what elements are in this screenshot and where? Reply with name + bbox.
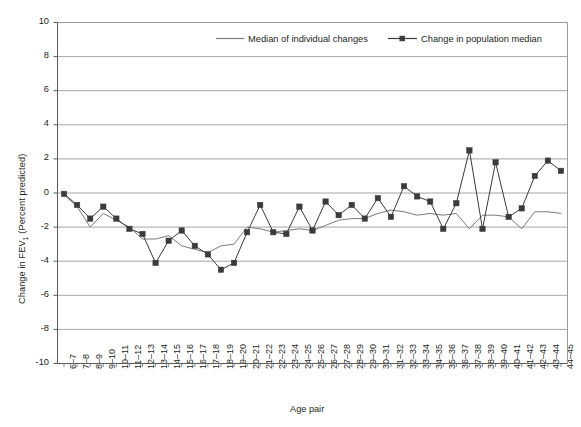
legend-swatch-marker-population-median [400,36,405,41]
chart-figure: Change in FEV1 (Percent predicted) 10864… [0,0,581,427]
data-point-marker [257,202,262,207]
data-point-marker [127,226,132,231]
data-point-marker [388,214,393,219]
data-point-marker [114,216,119,221]
data-point-marker [493,160,498,165]
series-line [64,195,561,253]
y-tick-marks [54,23,58,364]
series-line [64,150,561,269]
data-point-marker [205,252,210,257]
data-point-marker [532,173,537,178]
data-point-marker [401,183,406,188]
data-point-marker [271,230,276,235]
data-point-marker [506,214,511,219]
data-point-marker [480,226,485,231]
data-point-marker [558,168,563,173]
series-1 [64,195,561,253]
data-point-marker [192,243,197,248]
data-point-marker [153,260,158,265]
data-point-marker [166,238,171,243]
data-point-marker [467,148,472,153]
plot-canvas [0,0,581,427]
data-point-marker [349,202,354,207]
data-point-marker [441,226,446,231]
data-point-marker [454,201,459,206]
legend-label-population-median: Change in population median [421,34,542,44]
data-point-marker [362,216,367,221]
data-point-marker [61,191,66,196]
data-point-marker [140,231,145,236]
data-point-marker [375,195,380,200]
data-point-marker [297,204,302,209]
legend-label-median-individual: Median of individual changes [248,34,368,44]
data-point-marker [336,212,341,217]
data-point-marker [519,206,524,211]
data-point-marker [427,199,432,204]
gridlines [58,23,568,364]
x-tick-marks [64,364,561,368]
data-point-marker [323,199,328,204]
data-point-marker [218,267,223,272]
data-point-marker [310,228,315,233]
data-point-marker [244,230,249,235]
data-point-marker [231,260,236,265]
data-point-marker [74,202,79,207]
data-point-marker [414,194,419,199]
data-point-marker [87,216,92,221]
data-point-marker [179,228,184,233]
data-point-marker [101,204,106,209]
data-point-marker [545,158,550,163]
series-2 [61,148,563,273]
data-point-marker [284,231,289,236]
